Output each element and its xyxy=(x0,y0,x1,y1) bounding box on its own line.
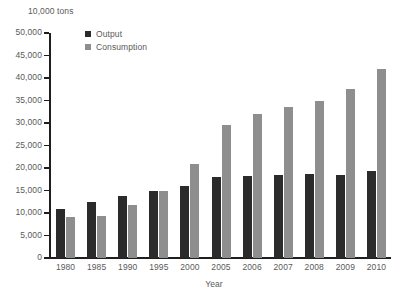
bar-group xyxy=(243,33,262,258)
bar-group xyxy=(274,33,293,258)
x-axis-title: Year xyxy=(10,279,408,289)
y-tick-label: 35,000 xyxy=(15,95,42,105)
x-tick-label: 1995 xyxy=(144,262,174,272)
bar-output xyxy=(180,186,189,258)
bar-output xyxy=(367,171,376,258)
y-tick-label: 20,000 xyxy=(15,162,42,172)
y-tick-label: 45,000 xyxy=(15,50,42,60)
bar-group xyxy=(212,33,231,258)
bar-group xyxy=(56,33,75,258)
bar-group xyxy=(87,33,106,258)
bar-consumption xyxy=(253,114,262,258)
y-axis-unit-label: 10,000 tons xyxy=(28,6,74,16)
bar-output xyxy=(56,209,65,258)
y-tick-label: 10,000 xyxy=(15,207,42,217)
bar-group xyxy=(367,33,386,258)
bar-consumption xyxy=(284,107,293,258)
bar-consumption xyxy=(128,205,137,258)
y-tick-label: 5,000 xyxy=(20,230,42,240)
bar-output xyxy=(274,175,283,258)
bar-consumption xyxy=(190,164,199,258)
x-tick-label: 1980 xyxy=(51,262,81,272)
x-tick-label: 1990 xyxy=(113,262,143,272)
x-tick-label: 1985 xyxy=(82,262,112,272)
bar-group xyxy=(336,33,355,258)
bar-output xyxy=(87,202,96,258)
bar-consumption xyxy=(315,101,324,258)
bar-output xyxy=(212,177,221,258)
bar-group xyxy=(180,33,199,258)
bar-consumption xyxy=(159,191,168,258)
y-tick-label: 15,000 xyxy=(15,185,42,195)
bar-output xyxy=(243,176,252,258)
bar-consumption xyxy=(377,69,386,258)
bar-output xyxy=(118,196,127,258)
bar-consumption xyxy=(346,89,355,258)
y-tick-label: 40,000 xyxy=(15,72,42,82)
x-tick-label: 2006 xyxy=(237,262,267,272)
bar-consumption xyxy=(66,217,75,258)
x-tick-label: 2005 xyxy=(206,262,236,272)
x-tick-label: 2010 xyxy=(361,262,391,272)
y-tick-label: 0 xyxy=(37,252,42,262)
bar-chart: 10,000 tons 50,00045,00040,00035,00030,0… xyxy=(0,0,408,305)
bar-group xyxy=(149,33,168,258)
bar-group xyxy=(118,33,137,258)
bar-consumption xyxy=(97,216,106,258)
bar-consumption xyxy=(222,125,231,258)
x-tick-label: 2008 xyxy=(299,262,329,272)
y-tick-label: 25,000 xyxy=(15,140,42,150)
bar-group xyxy=(305,33,324,258)
y-tick-label: 50,000 xyxy=(15,27,42,37)
x-tick-label: 2007 xyxy=(268,262,298,272)
bar-output xyxy=(305,174,314,258)
x-tick-label: 2009 xyxy=(330,262,360,272)
bar-output xyxy=(149,191,158,259)
y-tick-label: 30,000 xyxy=(15,117,42,127)
x-tick-label: 2000 xyxy=(175,262,205,272)
bar-output xyxy=(336,175,345,258)
plot-area xyxy=(49,33,391,258)
